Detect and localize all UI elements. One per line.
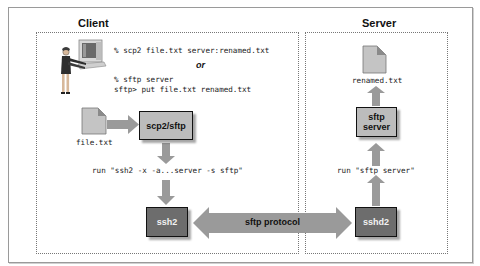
sftp-server-label-line2: server — [363, 122, 390, 132]
sshd2-box: sshd2 — [355, 207, 397, 237]
sftp-server-label-line1: sftp — [368, 112, 385, 122]
server-run-label: run "sftp server" — [337, 166, 415, 176]
sftp-command-line1: % sftp server — [114, 75, 173, 85]
file-label: file.txt — [76, 138, 113, 148]
ssh2-label: ssh2 — [157, 217, 178, 227]
sftp-protocol-label: sftp protocol — [245, 217, 300, 227]
arrow-run-to-ssh2 — [157, 180, 175, 205]
scp2-sftp-box: scp2/sftp — [139, 111, 193, 140]
arrow-sftp-server-to-file — [367, 86, 385, 106]
sftp-command-line2: sftp> put file.txt renamed.txt — [114, 85, 251, 95]
diagram-graphics — [0, 0, 480, 266]
ssh2-box: ssh2 — [146, 207, 188, 237]
arrow-file-to-scp2 — [107, 115, 139, 134]
client-run-label: run "ssh2 -x -a...server -s sftp" — [92, 166, 243, 176]
arrow-scp2-down — [157, 143, 175, 164]
scp2-command: % scp2 file.txt server:renamed.txt — [114, 46, 269, 56]
or-label: or — [196, 60, 205, 70]
user-at-computer-icon — [61, 40, 106, 94]
scp2-sftp-label: scp2/sftp — [146, 121, 186, 131]
renamed-file-icon — [363, 46, 386, 73]
sshd2-label: sshd2 — [363, 217, 389, 227]
file-icon — [82, 108, 106, 134]
arrow-sshd2-up — [367, 175, 385, 206]
arrow-run-to-sftp-server — [367, 143, 385, 166]
renamed-file-label: renamed.txt — [352, 76, 402, 86]
sftp-server-box: sftp server — [356, 107, 397, 137]
